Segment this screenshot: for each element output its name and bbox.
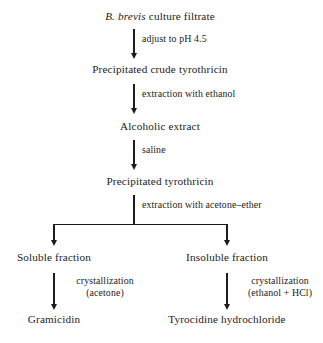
bracket-leg-left — [53, 224, 55, 241]
flowchart-diagram: B. brevis culture filtrate adjust to pH … — [0, 0, 323, 343]
edge-label-extraction-ethanol: extraction with ethanol — [142, 88, 235, 100]
edge-label-crystallization-ethanol-hcl: crystallization (ethanol + HCl) — [248, 275, 312, 298]
edge-label-crystallization-acetone-line1: crystallization — [76, 275, 133, 287]
node-culture-filtrate-label: culture filtrate — [146, 10, 215, 22]
arrow-3 — [133, 140, 135, 165]
species-name: B. brevis — [105, 10, 146, 22]
node-alcoholic-extract: Alcoholic extract — [120, 120, 200, 133]
edge-label-extraction-acetone-ether: extraction with acetone–ether — [142, 199, 262, 211]
bracket-bar — [53, 224, 227, 226]
bracket-stem — [133, 195, 135, 225]
bracket-leg-right — [226, 224, 228, 241]
arrow-left-crystallization — [53, 273, 55, 305]
edge-label-adjust-ph: adjust to pH 4.5 — [142, 33, 207, 45]
node-tyrocidine-hydrochloride: Tyrocidine hydrochloride — [168, 313, 285, 326]
edge-label-crystallization-ethanol-hcl-line1: crystallization — [248, 275, 312, 287]
edge-label-crystallization-acetone-line2: (acetone) — [76, 287, 133, 299]
node-insoluble-fraction: Insoluble fraction — [186, 251, 268, 264]
arrow-right-crystallization — [226, 273, 228, 305]
node-gramicidin: Gramicidin — [28, 313, 80, 326]
node-precipitated-crude-tyrothricin: Precipitated crude tyrothricin — [92, 63, 228, 76]
node-precipitated-tyrothricin: Precipitated tyrothricin — [106, 175, 213, 188]
node-soluble-fraction: Soluble fraction — [17, 251, 91, 264]
node-culture-filtrate: B. brevis culture filtrate — [105, 10, 215, 23]
edge-label-crystallization-acetone: crystallization (acetone) — [76, 275, 133, 298]
edge-label-crystallization-ethanol-hcl-line2: (ethanol + HCl) — [248, 287, 312, 299]
edge-label-saline: saline — [142, 144, 166, 156]
arrow-1 — [133, 29, 135, 54]
arrow-2 — [133, 84, 135, 109]
